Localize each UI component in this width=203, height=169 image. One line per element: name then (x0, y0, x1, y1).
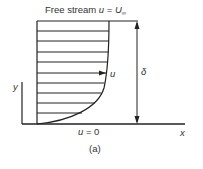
arrow-down-icon (135, 116, 140, 124)
figure-caption: (a) (89, 143, 101, 154)
boundary-layer-diagram: Free stream u = U∞ u δ y x u = 0 (a) (0, 0, 203, 169)
velocity-arrowhead-icon (99, 71, 106, 76)
profile-lines (37, 31, 109, 113)
free-stream-label: Free stream u = U∞ (45, 4, 126, 16)
x-axis-label: x (179, 127, 186, 138)
thickness-label: δ (141, 66, 147, 77)
y-axis-label: y (12, 81, 19, 92)
velocity-label: u (110, 68, 116, 79)
wall-condition-label: u = 0 (78, 126, 99, 137)
arrow-up-icon (135, 21, 140, 29)
